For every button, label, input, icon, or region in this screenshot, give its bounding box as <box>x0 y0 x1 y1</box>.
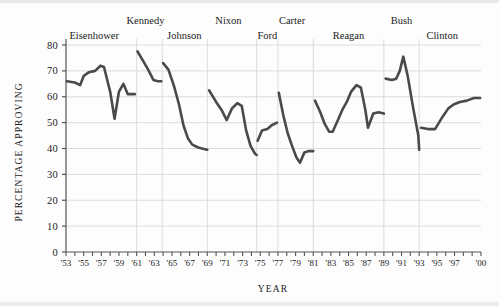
x-tick-label: '87 <box>361 258 372 268</box>
y-tick-label: 10 <box>47 221 58 232</box>
y-axis-title: PERCENTAGE APPROVING <box>14 82 24 221</box>
y-tick-label: 40 <box>47 143 58 154</box>
y-tick-label: 70 <box>47 65 58 76</box>
president-label-bush: Bush <box>391 15 413 26</box>
x-tick-label: '57 <box>96 258 107 268</box>
x-axis-ticks <box>66 252 481 256</box>
x-tick-label: '89 <box>378 258 389 268</box>
x-axis-title: YEAR <box>258 284 288 294</box>
x-tick-label: '93 <box>414 258 425 268</box>
approval-rating-line-chart: 01020304050607080 '53'55'57'59'61'63'65'… <box>0 0 499 306</box>
x-tick-label: '61 <box>131 258 142 268</box>
x-tick-label: '97 <box>449 258 460 268</box>
x-tick-label: '91 <box>396 258 407 268</box>
y-tick-label: 80 <box>47 40 58 51</box>
president-label-johnson: Johnson <box>167 30 202 41</box>
x-tick-label: '55 <box>78 258 89 268</box>
x-tick-label: '83 <box>325 258 336 268</box>
x-tick-label: '85 <box>343 258 354 268</box>
president-label-kennedy: Kennedy <box>127 15 166 26</box>
x-tick-label: '77 <box>272 258 283 268</box>
y-tick-label: 50 <box>47 117 58 128</box>
y-tick-label: 60 <box>47 91 58 102</box>
x-tick-label: '95 <box>431 258 442 268</box>
y-tick-label: 0 <box>53 247 58 258</box>
x-tick-label: '75 <box>255 258 266 268</box>
series-line-eisenhower <box>67 66 135 119</box>
series-line-clinton <box>421 98 480 129</box>
president-label-clinton: Clinton <box>426 30 458 41</box>
series-line-kennedy <box>138 51 162 81</box>
chart-figure: 01020304050607080 '53'55'57'59'61'63'65'… <box>0 0 499 306</box>
x-tick-label: '67 <box>184 258 195 268</box>
president-label-carter: Carter <box>279 15 306 26</box>
y-tick-label: 20 <box>47 195 58 206</box>
president-label-nixon: Nixon <box>215 15 242 26</box>
president-annotations: EisenhowerKennedyJohnsonNixonFordCarterR… <box>69 15 458 41</box>
series-line-ford <box>258 123 277 141</box>
x-tick-label: '00 <box>476 258 487 268</box>
x-tick-label: '65 <box>166 258 177 268</box>
president-label-eisenhower: Eisenhower <box>69 30 119 41</box>
president-label-reagan: Reagan <box>333 30 365 41</box>
y-axis-tick-labels: 01020304050607080 <box>47 40 58 258</box>
x-tick-label: '71 <box>219 258 230 268</box>
series-line-reagan <box>315 85 384 132</box>
president-label-ford: Ford <box>257 30 278 41</box>
x-tick-label: '53 <box>61 258 72 268</box>
x-axis-tick-labels: '53'55'57'59'61'63'65'67'69'71'73'75'77'… <box>61 258 487 268</box>
x-tick-label: '69 <box>202 258 213 268</box>
series-line-johnson <box>163 63 207 150</box>
y-tick-label: 30 <box>47 169 58 180</box>
data-series-lines <box>67 51 480 162</box>
x-tick-label: '81 <box>308 258 319 268</box>
x-tick-label: '79 <box>290 258 301 268</box>
series-line-carter <box>279 93 313 163</box>
x-tick-label: '59 <box>114 258 125 268</box>
x-tick-label: '63 <box>149 258 160 268</box>
x-tick-label: '73 <box>237 258 248 268</box>
